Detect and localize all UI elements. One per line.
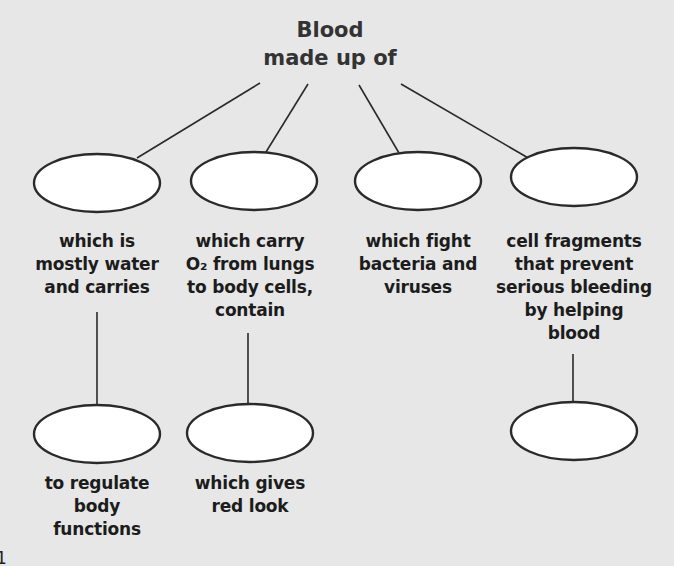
blank-ellipse-platelets[interactable] [511, 148, 637, 206]
connector-title-red-cells [266, 84, 308, 152]
red-cells-child-description: which gives red look [170, 472, 330, 518]
description-line: O₂ from lungs [170, 253, 330, 276]
connector-title-white-cells [359, 85, 399, 153]
blank-ellipse-white-cells[interactable] [355, 152, 481, 210]
white-cells-description: which fight bacteria and viruses [338, 230, 498, 299]
connector-title-platelets [401, 84, 530, 159]
description-line: blood [484, 322, 664, 345]
blank-ellipse-platelets-child[interactable] [511, 402, 637, 460]
description-line: functions [17, 518, 177, 541]
connector-title-plasma [137, 83, 260, 158]
description-line: contain [170, 299, 330, 322]
plasma-description: which is mostly water and carries [17, 230, 177, 299]
blank-ellipse-plasma[interactable] [34, 154, 160, 212]
blank-ellipse-red-cells-child[interactable] [187, 404, 313, 462]
description-line: to regulate [17, 472, 177, 495]
description-line: red look [170, 495, 330, 518]
description-line: which fight [338, 230, 498, 253]
description-line: which is [17, 230, 177, 253]
description-line: and carries [17, 276, 177, 299]
description-line: body [17, 495, 177, 518]
description-line: which gives [170, 472, 330, 495]
title-line: made up of [230, 44, 430, 72]
platelets-description: cell fragments that prevent serious blee… [484, 230, 664, 345]
description-line: by helping [484, 299, 664, 322]
page-mark: 1 [0, 548, 7, 566]
red-cells-description: which carry O₂ from lungs to body cells,… [170, 230, 330, 322]
description-line: that prevent [484, 253, 664, 276]
description-line: viruses [338, 276, 498, 299]
description-line: to body cells, [170, 276, 330, 299]
description-line: serious bleeding [484, 276, 664, 299]
description-line: mostly water [17, 253, 177, 276]
blank-ellipse-plasma-child[interactable] [34, 405, 160, 463]
plasma-child-description: to regulate body functions [17, 472, 177, 541]
description-line: which carry [170, 230, 330, 253]
blank-ellipse-red-cells[interactable] [191, 152, 317, 210]
description-line: cell fragments [484, 230, 664, 253]
diagram-title: Blood made up of [230, 16, 430, 72]
description-line: bacteria and [338, 253, 498, 276]
title-line: Blood [230, 16, 430, 44]
